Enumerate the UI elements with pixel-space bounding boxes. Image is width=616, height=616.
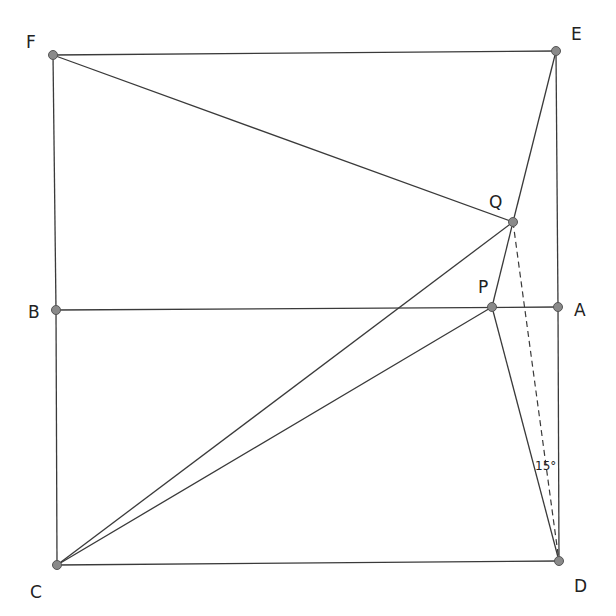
point-label-c: C	[30, 582, 42, 602]
segment-ad	[558, 307, 559, 561]
segment-fb	[53, 55, 56, 310]
segment-qd	[513, 222, 559, 561]
point-q	[509, 218, 518, 227]
segment-bc	[56, 310, 57, 565]
segment-cp	[57, 307, 492, 565]
point-b	[52, 306, 61, 315]
geometry-diagram: FEQPABCD 15°	[0, 0, 616, 616]
point-a	[554, 303, 563, 312]
segments	[53, 51, 559, 565]
point-c	[53, 561, 62, 570]
segment-fe	[53, 51, 556, 55]
point-e	[552, 47, 561, 56]
point-f	[49, 51, 58, 60]
segment-cq	[57, 222, 513, 565]
annotations: 15°	[535, 459, 556, 473]
point-label-q: Q	[489, 192, 502, 212]
segment-eq	[513, 51, 556, 222]
angle-label: 15°	[535, 459, 556, 473]
segment-cd	[57, 561, 559, 565]
point-label-a: A	[574, 300, 586, 320]
point-p	[488, 303, 497, 312]
point-d	[555, 557, 564, 566]
segment-fq	[53, 55, 513, 222]
segment-pd	[492, 307, 559, 561]
point-label-e: E	[571, 24, 582, 44]
segment-ba	[56, 307, 558, 310]
point-labels: FEQPABCD	[26, 24, 587, 602]
point-label-f: F	[26, 32, 36, 52]
point-label-b: B	[28, 302, 40, 322]
point-label-p: P	[478, 277, 488, 297]
segment-ea	[556, 51, 558, 307]
point-label-d: D	[574, 576, 587, 596]
